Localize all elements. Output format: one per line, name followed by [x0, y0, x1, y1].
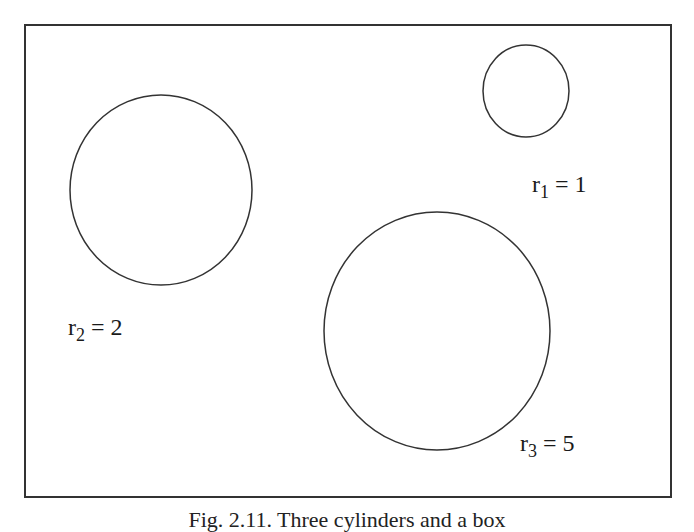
label-r2: r2 = 2: [68, 315, 123, 339]
label-r3-var: r: [520, 430, 528, 456]
circle-r3: [324, 212, 550, 450]
label-r2-var: r: [68, 314, 76, 340]
label-r3: r3 = 5: [520, 431, 575, 455]
figure-caption: Fig. 2.11. Three cylinders and a box: [0, 509, 694, 531]
label-r3-value: = 5: [537, 430, 575, 456]
label-r2-sub: 2: [76, 325, 85, 345]
label-r1-value: = 1: [549, 171, 587, 197]
label-r1-var: r: [532, 171, 540, 197]
label-r2-value: = 2: [85, 314, 123, 340]
label-r1: r1 = 1: [532, 172, 587, 196]
circle-r1: [483, 45, 569, 137]
circle-r2: [70, 95, 252, 285]
label-r3-sub: 3: [528, 441, 537, 461]
label-r1-sub: 1: [540, 182, 549, 202]
